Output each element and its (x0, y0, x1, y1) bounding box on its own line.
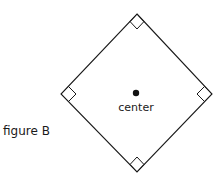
figure-caption: figure B (3, 124, 50, 138)
right-angle-marker-top (130, 14, 144, 29)
figure-b-diagram: center figure B (0, 0, 224, 173)
right-angle-marker-left (61, 87, 76, 102)
center-dot (133, 90, 139, 96)
right-angle-marker-bottom (130, 157, 144, 172)
center-label: center (118, 101, 154, 114)
right-angle-marker-right (197, 87, 212, 102)
